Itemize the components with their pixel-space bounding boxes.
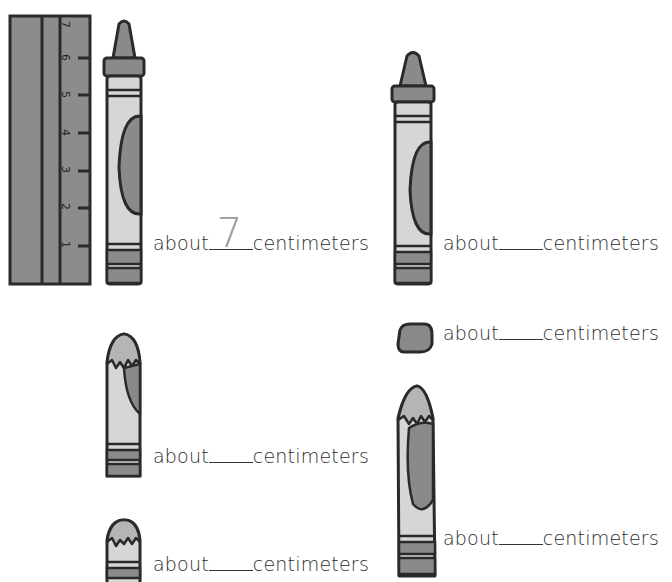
answer-blank-4[interactable] [209,556,253,571]
answer-blank-6[interactable] [499,530,543,545]
ruler-tick-6: 6 [59,54,72,61]
suffix-6: centimeters [543,527,659,549]
crayon-icon-3 [104,332,146,480]
crayon-icon-6 [395,384,439,580]
crayon-icon-4 [104,518,146,582]
answer-line-3: aboutcentimeters [153,445,369,467]
answer-blank-5[interactable] [499,325,543,340]
prefix-6: about [443,527,499,549]
crayon-icon-1 [101,18,147,286]
answer-line-1: about7centimeters [153,232,369,254]
suffix-3: centimeters [253,445,369,467]
suffix-2: centimeters [543,232,659,254]
answer-blank-1[interactable]: 7 [209,235,253,250]
suffix-4: centimeters [253,553,369,575]
answer-line-6: aboutcentimeters [443,527,659,549]
ruler-tick-2: 2 [59,203,72,210]
prefix-3: about [153,445,209,467]
suffix-5: centimeters [543,322,659,344]
ruler-tick-5: 5 [59,91,72,98]
prefix-5: about [443,322,499,344]
suffix-1: centimeters [253,232,369,254]
answer-blank-3[interactable] [209,448,253,463]
ruler-tick-1: 1 [59,241,72,248]
ruler [8,14,92,286]
crayon-icon-2 [390,50,436,286]
prefix-1: about [153,232,209,254]
answer-blank-2[interactable] [499,235,543,250]
answer-line-5: aboutcentimeters [443,322,659,344]
answer-line-2: aboutcentimeters [443,232,659,254]
ruler-tick-7: 7 [59,21,72,28]
ruler-tick-4: 4 [59,129,72,136]
ruler-tick-3: 3 [59,166,72,173]
prefix-2: about [443,232,499,254]
answer-line-4: aboutcentimeters [153,553,369,575]
crayon-stub-icon-5 [396,322,436,354]
prefix-4: about [153,553,209,575]
answer-value-1: 7 [217,213,243,253]
